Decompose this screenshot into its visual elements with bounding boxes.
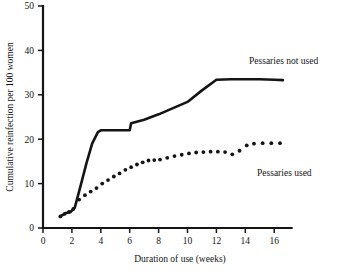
x-tick-label-8: 8	[156, 236, 161, 246]
chart-figure: 01020304050 0246810121416 Pessaries not …	[0, 0, 359, 271]
series-label-pessaries-not-used: Pessaries not used	[249, 56, 318, 66]
data-point	[95, 186, 99, 190]
data-point	[201, 150, 205, 154]
series-line-pessaries-not-used	[60, 79, 283, 216]
data-point	[230, 152, 234, 156]
x-axis: 0246810121416	[41, 228, 292, 246]
y-tick-label-20: 20	[25, 135, 35, 145]
data-point	[77, 198, 81, 202]
y-axis: 01020304050	[25, 1, 44, 233]
data-point	[129, 165, 133, 169]
data-point	[100, 182, 104, 186]
data-point	[238, 149, 242, 153]
data-point	[187, 152, 191, 156]
x-tick-label-4: 4	[98, 236, 103, 246]
x-tick-label-12: 12	[212, 236, 222, 246]
x-tick-label-14: 14	[241, 236, 251, 246]
series-layer	[58, 79, 282, 218]
data-point	[223, 150, 227, 154]
series-label-pessaries-used: Pessaries used	[257, 168, 312, 178]
data-point	[152, 158, 156, 162]
data-point	[216, 150, 220, 154]
data-point	[252, 142, 256, 146]
data-point	[118, 171, 122, 175]
data-point	[112, 175, 116, 179]
data-point	[71, 207, 75, 211]
data-point	[245, 144, 249, 148]
chart-canvas: 01020304050 0246810121416 Pessaries not …	[0, 0, 359, 271]
data-point	[83, 193, 87, 197]
data-point	[278, 141, 282, 145]
data-point	[209, 150, 213, 154]
x-axis-title: Duration of use (weeks)	[134, 254, 226, 265]
data-point	[194, 151, 198, 155]
data-point	[180, 153, 184, 157]
y-tick-label-30: 30	[25, 90, 35, 100]
data-point	[261, 141, 265, 145]
x-tick-label-10: 10	[183, 236, 193, 246]
data-point	[106, 178, 110, 182]
x-tick-label-6: 6	[127, 236, 132, 246]
data-point	[173, 154, 177, 158]
data-point	[165, 156, 169, 160]
data-point	[63, 212, 67, 216]
data-point	[158, 158, 162, 162]
series-dots-pessaries-used	[58, 141, 281, 218]
x-tick-label-2: 2	[70, 236, 75, 246]
data-point	[67, 210, 71, 214]
data-point	[135, 163, 139, 167]
x-tick-label-0: 0	[41, 236, 46, 246]
y-tick-label-40: 40	[25, 46, 35, 56]
y-tick-label-50: 50	[25, 1, 35, 11]
data-point	[269, 141, 273, 145]
x-axis-tick-labels: 0246810121416	[41, 236, 280, 246]
data-point	[147, 159, 151, 163]
data-point	[89, 190, 93, 194]
data-point	[58, 215, 62, 219]
y-tick-label-10: 10	[25, 179, 35, 189]
y-axis-tick-labels: 01020304050	[25, 1, 35, 233]
data-point	[141, 160, 145, 164]
y-tick-label-0: 0	[29, 223, 34, 233]
data-point	[123, 168, 127, 172]
x-tick-label-16: 16	[269, 236, 279, 246]
y-axis-title: Cumulative reinfection per 100 women	[5, 42, 15, 192]
